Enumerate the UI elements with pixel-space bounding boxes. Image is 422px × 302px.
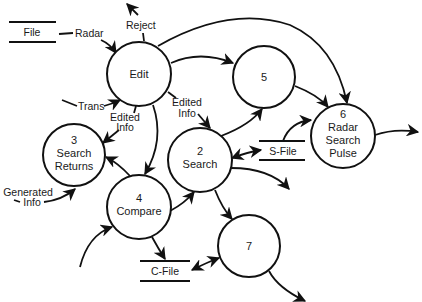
flow-label-edited-info-left-2: Info	[116, 121, 134, 133]
process-7: 7	[218, 215, 280, 277]
data-store-c-file: C-File	[140, 261, 190, 281]
process-2-name: Search	[183, 158, 218, 170]
flow-edit-to-2-arrow	[198, 114, 210, 128]
process-3-number: 3	[71, 134, 77, 146]
flow-reject-arrow	[127, 4, 138, 15]
flow-radar-arrow	[101, 40, 116, 53]
flow-4-to-cfile	[152, 237, 165, 259]
flow-generated-start	[14, 200, 20, 202]
data-store-c-file-label: C-File	[151, 265, 179, 277]
process-6-line-1: Radar	[328, 121, 358, 133]
flow-2-to-7	[215, 190, 232, 219]
process-6: 6 Radar Search Pulse	[311, 104, 375, 168]
process-6-line-3: Pulse	[329, 147, 357, 159]
flow-label-generated-info-2: Info	[23, 196, 41, 208]
flow-6-out	[375, 131, 418, 135]
process-2: 2 Search	[168, 128, 232, 192]
process-7-number: 7	[246, 240, 252, 252]
process-3-line-1: Search	[57, 147, 92, 159]
flow-4-to-3	[106, 157, 130, 176]
flow-sfile-to-6	[283, 120, 311, 141]
process-4-name: Compare	[116, 205, 161, 217]
process-6-line-2: Search	[326, 134, 361, 146]
data-store-s-file-label: S-File	[269, 145, 297, 157]
process-edit-label: Edit	[130, 68, 149, 80]
process-2-number: 2	[197, 145, 203, 157]
process-3: 3 Search Returns	[43, 124, 105, 186]
flow-trans-arrow	[104, 100, 120, 106]
process-edit: Edit	[107, 42, 171, 106]
process-3-line-2: Returns	[55, 160, 94, 172]
flow-2-sfile	[232, 150, 261, 158]
flow-radar	[59, 33, 73, 34]
flow-in-to-4	[80, 227, 112, 267]
flow-label-edited-info-right-2: Info	[178, 107, 196, 119]
data-store-file: File	[9, 22, 56, 42]
process-5-number: 5	[261, 71, 267, 83]
flow-edit-to-5	[171, 57, 233, 64]
flow-reject	[143, 33, 144, 41]
data-store-s-file: S-File	[259, 141, 305, 160]
flow-edit-to-4	[145, 105, 158, 174]
data-flow-diagram: File S-File C-File	[0, 0, 422, 302]
flow-trans-start	[62, 100, 77, 106]
flow-4-to-2	[170, 192, 194, 211]
flow-label-radar: Radar	[75, 27, 104, 39]
flow-5-to-6	[295, 86, 328, 107]
data-store-file-label: File	[24, 26, 41, 38]
flow-label-trans: Trans	[78, 100, 104, 112]
flow-label-reject: Reject	[126, 19, 156, 31]
flow-7-cfile	[192, 258, 219, 270]
flow-7-out	[269, 271, 305, 301]
process-4-number: 4	[136, 192, 142, 204]
process-5: 5	[233, 46, 295, 108]
process-6-number: 6	[340, 108, 346, 120]
flow-2-to-5	[221, 109, 262, 136]
flow-2-out	[231, 168, 289, 189]
process-4: 4 Compare	[107, 175, 171, 239]
